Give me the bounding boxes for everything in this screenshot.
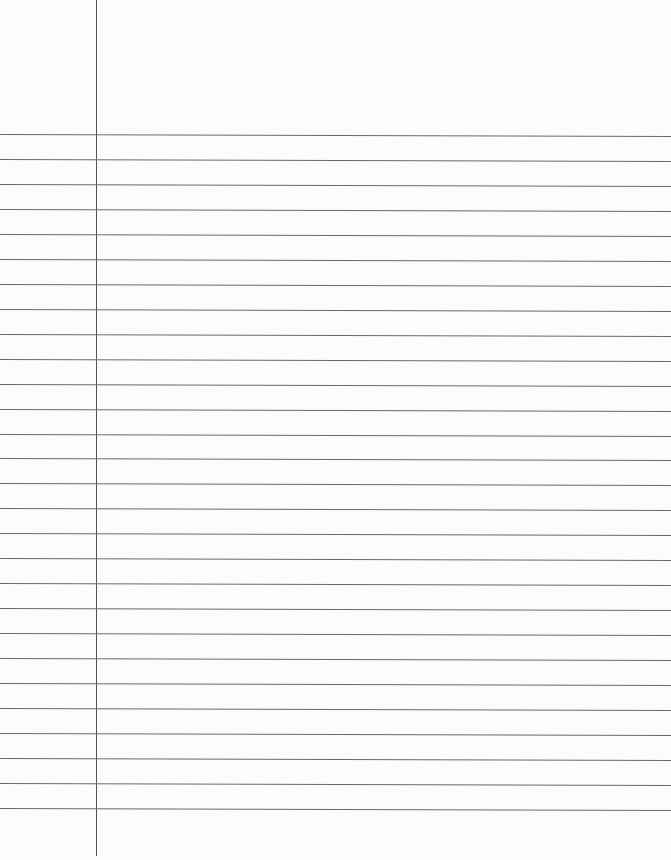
ruled-line <box>0 159 671 162</box>
ruled-line <box>0 284 671 287</box>
ruled-line <box>0 458 671 461</box>
ruled-line <box>0 359 671 362</box>
ruled-line <box>0 234 671 237</box>
margin-line <box>96 0 97 856</box>
ruled-line <box>0 483 671 486</box>
lined-paper-sheet <box>0 0 671 860</box>
ruled-line <box>0 658 671 661</box>
ruled-line <box>0 259 671 262</box>
ruled-line <box>0 309 671 312</box>
ruled-line <box>0 384 671 387</box>
ruled-line <box>0 583 671 586</box>
ruled-line <box>0 434 671 437</box>
ruled-line <box>0 733 671 736</box>
ruled-line <box>0 783 671 786</box>
ruled-line <box>0 683 671 686</box>
ruled-line <box>0 808 671 811</box>
ruled-line <box>0 134 671 137</box>
ruled-line <box>0 633 671 636</box>
ruled-line <box>0 708 671 711</box>
ruled-line <box>0 508 671 511</box>
ruled-line <box>0 184 671 187</box>
ruled-line <box>0 334 671 337</box>
ruled-line <box>0 409 671 412</box>
ruled-line <box>0 533 671 536</box>
ruled-line <box>0 608 671 611</box>
ruled-line <box>0 209 671 212</box>
ruled-line <box>0 758 671 761</box>
ruled-line <box>0 558 671 561</box>
